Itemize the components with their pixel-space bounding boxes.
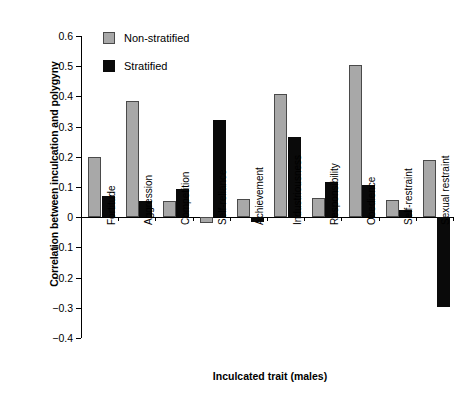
bar-stratified-sexual-restraint [437,217,450,307]
y-tick-label: 0.3 [58,121,73,133]
x-tick [304,217,305,221]
x-tick [416,217,417,221]
y-tick [76,127,81,128]
y-tick-label: −0.4 [52,332,73,344]
legend-swatch-stratified [103,60,115,72]
x-tick [453,217,454,221]
y-tick-label: −0.3 [52,302,73,314]
bar-chart-figure: Correlation between inculcation and poly… [0,0,472,398]
legend-swatch-non-stratified [103,32,115,44]
x-category-label-fortitude: Fortitude [106,186,117,225]
bar-non-stratified-responsibility [312,198,325,217]
bar-non-stratified-competition [163,201,176,217]
x-category-label-responsibility: Responsibility [329,163,340,225]
x-tick [341,217,342,221]
x-category-label-aggression: Aggression [143,175,154,225]
y-tick [76,308,81,309]
y-tick-label: 0.2 [58,151,73,163]
y-tick-label: 0.5 [58,60,73,72]
y-tick-label: 0.6 [58,30,73,42]
y-tick-label: −0.1 [52,241,73,253]
bar-non-stratified-fortitude [88,157,101,217]
x-tick [230,217,231,221]
y-tick-label: 0 [67,211,73,223]
x-category-label-obedience: Obedience [366,177,377,225]
y-tick [76,157,81,158]
y-tick [76,36,81,37]
y-tick [76,187,81,188]
x-category-label-achievement: Achievement [254,167,265,225]
x-tick [118,217,119,221]
x-axis-title: Inculcated trait (males) [80,370,460,382]
bar-non-stratified-industriousness [274,94,287,217]
y-tick [76,66,81,67]
legend: Non-stratified Stratified [103,28,189,84]
bar-non-stratified-achievement [237,199,250,217]
bar-non-stratified-self-restraint [386,200,399,217]
bar-non-stratified-aggression [126,101,139,217]
x-category-label-industriousness: Industriousness [292,155,303,225]
x-tick [267,217,268,221]
x-category-label-self-reliance: Self-reliance [217,170,228,226]
x-tick [379,217,380,221]
y-tick [76,96,81,97]
x-tick [193,217,194,221]
legend-label-non-stratified: Non-stratified [124,32,189,44]
legend-label-stratified: Stratified [124,60,167,72]
x-category-label-sexual-restraint: Sexual restraint [440,156,451,225]
y-tick [76,278,81,279]
y-tick [76,338,81,339]
bar-non-stratified-self-reliance [200,217,213,222]
x-tick [155,217,156,221]
y-tick [76,247,81,248]
bar-non-stratified-sexual-restraint [423,160,436,217]
y-tick-label: 0.4 [58,90,73,102]
x-tick [81,217,82,221]
legend-entry-non-stratified: Non-stratified [103,28,189,48]
bar-non-stratified-obedience [349,65,362,218]
y-tick-label: −0.2 [52,272,73,284]
x-category-label-competition: Competition [180,172,191,225]
y-tick-label: 0.1 [58,181,73,193]
legend-entry-stratified: Stratified [103,56,189,76]
x-category-label-self-restraint: Self-restraint [403,169,414,226]
